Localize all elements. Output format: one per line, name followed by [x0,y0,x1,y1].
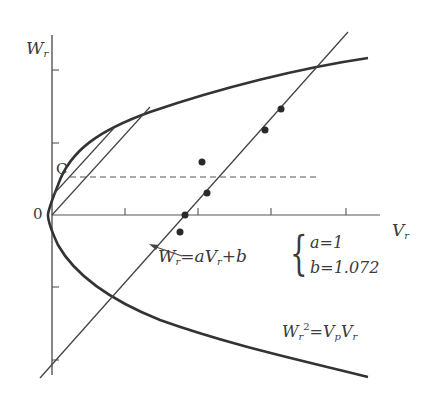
data-points [177,106,285,236]
diagram-canvas [0,0,437,406]
data-point [199,159,206,166]
x-ticks [125,208,346,215]
parabola-equation: Wr2=VpVr [282,322,357,341]
data-point [278,106,285,113]
data-point [204,190,211,197]
data-point [177,229,184,236]
brace-symbol: { [290,230,308,276]
coefficient-a: a=1 [310,233,343,252]
point-c-label: C [56,160,67,178]
data-point [262,127,269,134]
origin-label: 0 [33,205,43,223]
x-axis-label: Vr [392,220,409,240]
coefficient-b: b=1.072 [310,258,379,277]
regression-equation: Wr=aVr+b [158,246,247,266]
data-point [182,212,189,219]
y-axis-label: Wr [26,38,48,58]
